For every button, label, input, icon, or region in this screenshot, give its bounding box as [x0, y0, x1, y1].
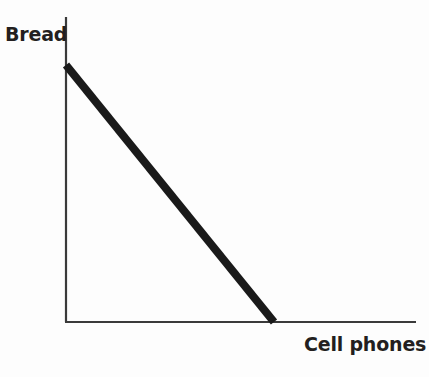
chart-figure: Bread Cell phones [0, 0, 429, 377]
frontier-line [66, 65, 274, 322]
plot-area [0, 0, 429, 377]
y-axis-label: Bread [5, 24, 67, 44]
x-axis-label: Cell phones [304, 334, 426, 354]
